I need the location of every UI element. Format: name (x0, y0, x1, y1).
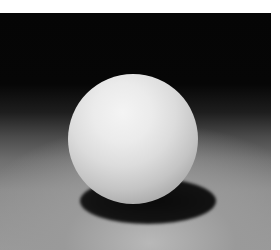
white-sphere (68, 74, 198, 204)
photo (0, 13, 271, 250)
